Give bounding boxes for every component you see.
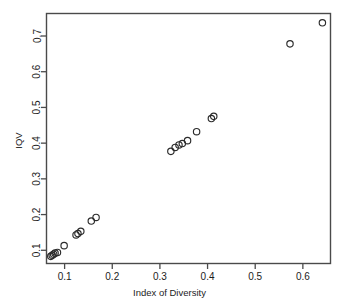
x-tick-label: 0.4 [201, 271, 215, 282]
x-tick-label: 0.5 [248, 271, 262, 282]
y-axis: 0.10.20.30.40.50.60.7 [32, 29, 47, 258]
data-point [61, 242, 67, 248]
y-tick-label: 0.1 [32, 243, 43, 257]
x-tick-label: 0.6 [296, 271, 310, 282]
scatter-plot-figure: 0.10.20.30.40.50.60.10.20.30.40.50.60.7 … [0, 0, 339, 307]
data-point [319, 20, 325, 26]
y-axis-title: IQV [13, 111, 24, 171]
y-tick-label: 0.7 [32, 29, 43, 43]
y-tick-label: 0.6 [32, 64, 43, 78]
y-tick-label: 0.4 [32, 136, 43, 150]
data-point [93, 214, 99, 220]
y-tick-label: 0.2 [32, 207, 43, 221]
data-point [184, 137, 190, 143]
x-tick-label: 0.3 [153, 271, 167, 282]
data-point [287, 41, 293, 47]
x-axis: 0.10.20.30.40.50.6 [58, 264, 311, 283]
data-points [48, 20, 326, 260]
y-tick-label: 0.5 [32, 100, 43, 114]
y-tick-label: 0.3 [32, 171, 43, 185]
plot-frame [47, 14, 331, 264]
plot-canvas: 0.10.20.30.40.50.60.10.20.30.40.50.60.7 [0, 0, 339, 307]
x-tick-label: 0.1 [58, 271, 72, 282]
data-point [193, 129, 199, 135]
x-axis-title: Index of Diversity [0, 287, 339, 298]
x-tick-label: 0.2 [105, 271, 119, 282]
